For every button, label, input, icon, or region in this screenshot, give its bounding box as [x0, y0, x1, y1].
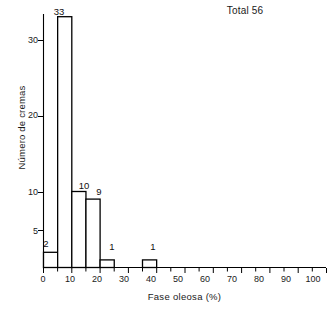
- histogram-bars: [44, 17, 157, 268]
- bar-bin-35-40: [143, 260, 157, 268]
- bar-bin-15-20: [86, 199, 100, 267]
- y-axis-ticks: [38, 41, 43, 231]
- histogram-chart: Total 56 Número de cremas Fase oleosa (%…: [0, 0, 335, 310]
- plot-canvas: [0, 0, 335, 310]
- bar-bin-20-25: [100, 260, 114, 268]
- bar-bin-5-10: [58, 17, 72, 268]
- bar-bin-10-15: [72, 192, 86, 268]
- bar-bin-0-5: [44, 252, 58, 267]
